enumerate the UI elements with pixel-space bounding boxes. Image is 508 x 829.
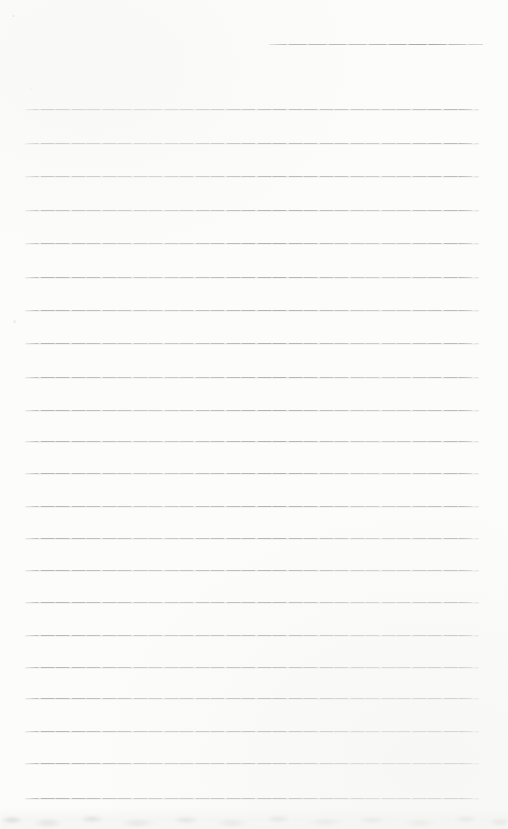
ruled-line <box>25 310 479 311</box>
ruled-line <box>25 667 479 668</box>
ruled-line <box>25 763 479 764</box>
ruled-line <box>25 698 479 699</box>
ruled-line <box>25 109 479 110</box>
ruled-line <box>25 602 479 603</box>
notebook-page <box>0 0 508 829</box>
paper-speck <box>13 320 16 323</box>
ruled-line <box>25 210 479 211</box>
ruled-line <box>25 243 479 244</box>
ruled-line <box>25 377 479 378</box>
ruled-line <box>25 441 479 442</box>
ruled-line <box>25 410 479 411</box>
ruled-line <box>25 570 479 571</box>
ruled-line <box>25 798 479 799</box>
ruled-line <box>25 506 479 507</box>
ruled-line <box>25 731 479 732</box>
page-bleed-through-texture <box>0 808 508 829</box>
ruled-line <box>25 343 479 344</box>
ruled-line <box>25 277 479 278</box>
ruled-line <box>25 143 479 144</box>
paper-speck <box>12 15 15 17</box>
ruled-line <box>25 538 479 539</box>
ruled-line <box>25 473 479 474</box>
ruled-line <box>25 635 479 636</box>
paper-speck <box>30 88 32 90</box>
ruled-line <box>25 176 479 177</box>
header-line <box>269 44 483 45</box>
